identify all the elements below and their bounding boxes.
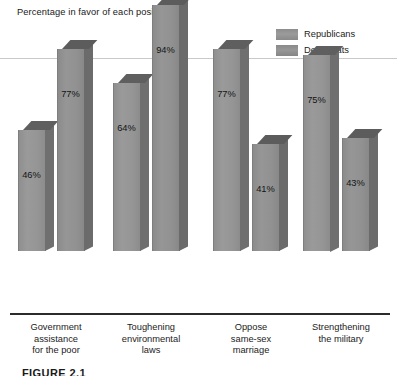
bar-side-face	[140, 79, 149, 251]
bar-democrats-2	[252, 144, 279, 251]
bar-side-face	[240, 45, 249, 251]
bar-side-face	[369, 134, 378, 251]
bar-value-label: 64%	[107, 123, 146, 133]
bar-side-face	[84, 45, 93, 251]
bar-front-face	[152, 5, 180, 251]
bar-body	[213, 49, 240, 251]
bar-value-label: 46%	[12, 170, 51, 180]
category-label-line: environmental	[93, 334, 209, 346]
bar-republicans-3	[303, 55, 330, 252]
bar-front-face	[57, 49, 85, 251]
bar-side-face	[330, 50, 339, 251]
bar-front-face	[18, 130, 46, 251]
figure-caption: FIGURE 2.1	[22, 367, 86, 376]
bar-value-label: 41%	[246, 184, 285, 194]
bar-front-face	[213, 49, 241, 251]
category-label-3: Strengtheningthe military	[283, 322, 397, 345]
bar-body	[57, 49, 84, 251]
category-label-line: Strengthening	[283, 322, 397, 334]
category-label-line: Toughening	[93, 322, 209, 334]
plot-area	[0, 0, 397, 314]
bar-value-label: 43%	[336, 178, 375, 188]
category-label-line: laws	[93, 345, 209, 357]
bar-republicans-1	[113, 83, 140, 251]
bar-value-label: 77%	[51, 89, 90, 99]
bar-body	[303, 55, 330, 252]
bar-body	[113, 83, 140, 251]
bar-democrats-1	[152, 5, 179, 251]
x-axis-baseline	[10, 313, 390, 315]
bar-democrats-0	[57, 49, 84, 251]
bar-democrats-3	[342, 138, 369, 251]
category-label-1: Tougheningenvironmentallaws	[93, 322, 209, 357]
bar-value-label: 75%	[297, 95, 336, 105]
category-label-line: the military	[283, 334, 397, 346]
bar-body	[18, 130, 45, 251]
bar-republicans-2	[213, 49, 240, 251]
bar-body	[342, 138, 369, 251]
bar-front-face	[303, 55, 331, 252]
bar-side-face	[45, 126, 54, 251]
bar-value-label: 94%	[146, 45, 185, 55]
bar-side-face	[279, 139, 288, 251]
bar-body	[252, 144, 279, 251]
bar-side-face	[179, 0, 188, 251]
bar-front-face	[113, 83, 141, 251]
bar-value-label: 77%	[207, 89, 246, 99]
bar-body	[152, 5, 179, 251]
bar-republicans-0	[18, 130, 45, 251]
bar-front-face	[252, 144, 280, 251]
category-label-line: marriage	[193, 345, 309, 357]
bar-front-face	[342, 138, 370, 251]
bar-chart: Percentage in favor of each position Rep…	[0, 0, 397, 376]
